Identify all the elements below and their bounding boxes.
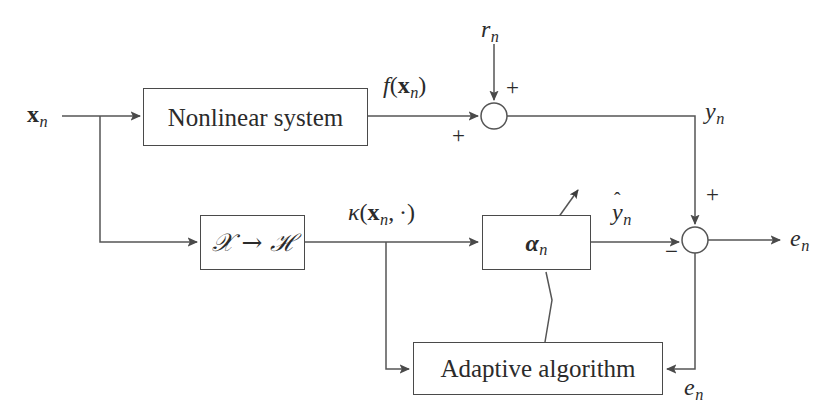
label-desired-yn: yn bbox=[705, 99, 724, 123]
block-mapping-label: 𝒳 → ℋ bbox=[212, 230, 294, 255]
label-feature-map-kappa: κ(xn, ·) bbox=[348, 200, 415, 224]
wire-kappa-branch-down bbox=[386, 242, 409, 369]
label-error-en: en bbox=[790, 226, 809, 250]
sign-sum2-bottom: − bbox=[665, 240, 678, 263]
wire-error-feedback bbox=[667, 253, 695, 369]
label-error-feedback-en: en bbox=[684, 375, 703, 399]
block-nonlinear-system-label: Nonlinear system bbox=[168, 105, 344, 130]
block-adaptive-algorithm[interactable]: Adaptive algorithm bbox=[413, 342, 663, 395]
block-alpha-label: αn bbox=[526, 231, 548, 255]
sign-sum2-top: + bbox=[706, 183, 719, 206]
sign-sum1-top: + bbox=[506, 76, 519, 99]
wire-adaptive-to-alpha bbox=[545, 272, 552, 342]
label-estimate-yhat: ̂yn bbox=[612, 200, 631, 224]
label-input-xn: xn bbox=[27, 102, 48, 126]
sign-sum1-left: + bbox=[452, 124, 465, 147]
block-alpha[interactable]: αn bbox=[482, 215, 591, 270]
summing-junction-2 bbox=[682, 227, 708, 253]
block-adaptive-algorithm-label: Adaptive algorithm bbox=[440, 356, 635, 381]
label-system-output-fxn: f(xn) bbox=[383, 73, 426, 97]
summing-junction-1 bbox=[481, 103, 507, 129]
wire-sum1-to-sum2 bbox=[507, 116, 695, 224]
block-nonlinear-system[interactable]: Nonlinear system bbox=[143, 88, 368, 146]
block-diagram: Nonlinear system 𝒳 → ℋ αn Adaptive algor… bbox=[0, 0, 829, 416]
label-reference-rn: rn bbox=[481, 17, 499, 41]
block-mapping[interactable]: 𝒳 → ℋ bbox=[200, 215, 305, 270]
